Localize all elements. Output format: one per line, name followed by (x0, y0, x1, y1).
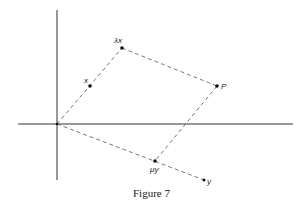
point-y (203, 179, 206, 182)
point-lambda-x (120, 46, 124, 50)
parallelogram-diagram: λx x P μy y (0, 0, 303, 209)
label-x: x (83, 76, 89, 85)
point-p (215, 84, 219, 88)
point-mu-y (153, 159, 157, 163)
label-y: y (206, 177, 212, 186)
figure-caption: Figure 7 (0, 187, 303, 199)
point-origin (56, 123, 59, 126)
dashed-lambda-x-to-p (122, 48, 217, 86)
label-p: P (221, 82, 227, 91)
point-x (88, 84, 92, 88)
dashed-origin-to-y (57, 124, 204, 180)
label-lambda-x: λx (113, 36, 123, 45)
label-mu-y: μy (149, 165, 159, 174)
